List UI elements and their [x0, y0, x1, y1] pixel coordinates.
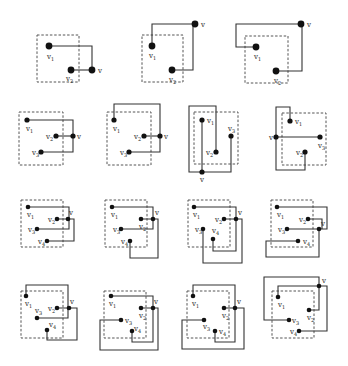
- vertex-label: v: [268, 134, 273, 142]
- vertex-label: v1: [112, 125, 120, 134]
- vertex-v1: [149, 43, 156, 50]
- vertex-v1: [275, 205, 280, 210]
- panel-r4c4: v1v2vv3v4: [264, 277, 327, 338]
- vertex-v1: [191, 294, 196, 299]
- vertex-label: v3: [227, 125, 235, 134]
- vertex-v2: [307, 308, 312, 313]
- panel-r1c1: v1v2v: [37, 35, 102, 84]
- vertex-label: v: [237, 209, 242, 217]
- vertex-label: v3: [194, 226, 202, 235]
- vertex-v: [66, 217, 71, 222]
- vertex-label: v: [320, 220, 325, 228]
- vertex-v3: [285, 227, 290, 232]
- vertex-label: v2: [138, 223, 146, 232]
- panel-r4c3: v1v2vv3v4: [182, 285, 244, 349]
- vertex-label: v3: [277, 226, 285, 235]
- vertex-v3: [202, 318, 207, 323]
- dashed-region-box: [37, 35, 79, 82]
- vertex-label: v4: [37, 238, 45, 247]
- vertex-v1: [192, 205, 197, 210]
- vertex-label: v1: [110, 211, 118, 220]
- vertex-label: v2: [205, 149, 213, 158]
- edge: [114, 104, 160, 152]
- vertex-v: [151, 217, 156, 222]
- vertex-v: [234, 217, 239, 222]
- vertex-v4: [128, 239, 133, 244]
- vertex-v: [298, 21, 305, 28]
- panel-r1c3: v1v2v: [236, 21, 311, 86]
- vertex-v3: [35, 227, 40, 232]
- edge: [26, 285, 68, 318]
- vertex-v1: [287, 118, 292, 123]
- vertex-v2: [302, 149, 307, 154]
- vertex-v3: [126, 149, 131, 154]
- vertex-label: v1: [25, 125, 33, 134]
- vertex-v4: [211, 237, 216, 242]
- vertex-v1: [110, 205, 115, 210]
- panel-r3c2: v1v2vv3v4: [105, 200, 159, 258]
- vertex-label: v: [68, 209, 73, 217]
- vertex-label: v1: [108, 300, 116, 309]
- dashed-region-box: [245, 36, 288, 83]
- vertex-v2: [139, 217, 144, 222]
- vertex-v: [233, 306, 238, 311]
- vertex-v2: [139, 306, 144, 311]
- vertex-label: v2: [214, 216, 222, 225]
- vertex-v: [273, 134, 278, 139]
- edge: [276, 107, 305, 170]
- vertex-v: [192, 21, 199, 28]
- panel-r2c2: v1v2vv3: [107, 104, 168, 165]
- vertex-label: v1: [24, 300, 32, 309]
- panel-r2c4: v1vv3v2: [268, 107, 326, 170]
- vertex-v2: [306, 217, 311, 222]
- vertex-label: v1: [253, 53, 261, 62]
- vertex-label: v: [163, 133, 168, 141]
- panel-r3c1: v1v2vv3v4: [21, 200, 74, 247]
- vertex-label: v2: [221, 312, 229, 321]
- vertex-v4: [297, 329, 302, 334]
- vertex-label: v2: [168, 76, 176, 85]
- vertex-label: v4: [48, 321, 56, 330]
- vertex-v2: [68, 67, 75, 74]
- vertex-v1: [276, 295, 281, 300]
- vertex-label: v3: [112, 226, 120, 235]
- vertex-label: v3: [202, 323, 210, 332]
- vertex-v2: [169, 67, 176, 74]
- vertex-v4: [45, 239, 50, 244]
- vertex-label: v2: [45, 133, 53, 142]
- vertex-v3: [228, 133, 233, 138]
- vertex-label: v1: [192, 211, 200, 220]
- vertex-v2: [213, 149, 218, 154]
- vertex-v: [157, 133, 162, 138]
- vertex-label: v: [153, 298, 158, 306]
- panel-r1c2: v1v2v: [142, 21, 205, 85]
- vertex-label: v: [69, 298, 74, 306]
- edge: [100, 308, 158, 350]
- vertex-label: v1: [294, 118, 302, 127]
- vertex-v4: [296, 239, 301, 244]
- edge: [266, 229, 319, 257]
- vertex-label: v3: [119, 149, 127, 158]
- vertex-v1: [26, 205, 31, 210]
- vertex-v: [317, 284, 322, 289]
- vertex-label: v2: [306, 314, 314, 323]
- panel-r2c3: v1v3v2v: [189, 106, 238, 184]
- vertex-label: v2: [47, 305, 55, 314]
- vertex-v2: [141, 133, 146, 138]
- vertex-label: v3: [27, 226, 35, 235]
- vertex-label: v: [236, 298, 241, 306]
- vertex-label: v2: [295, 149, 303, 158]
- vertex-v2: [53, 133, 58, 138]
- vertex-label: v1: [191, 300, 199, 309]
- vertex-label: v4: [302, 238, 310, 247]
- vertex-v2: [55, 217, 60, 222]
- edge: [276, 24, 302, 71]
- edge: [278, 286, 327, 331]
- vertex-label: v3: [31, 149, 39, 158]
- vertex-v1: [109, 294, 114, 299]
- vertex-label: v1: [206, 117, 214, 126]
- vertex-v3: [119, 318, 124, 323]
- vertex-label: v2: [138, 312, 146, 321]
- vertex-label: v3: [291, 317, 299, 326]
- vertex-v1: [111, 117, 116, 122]
